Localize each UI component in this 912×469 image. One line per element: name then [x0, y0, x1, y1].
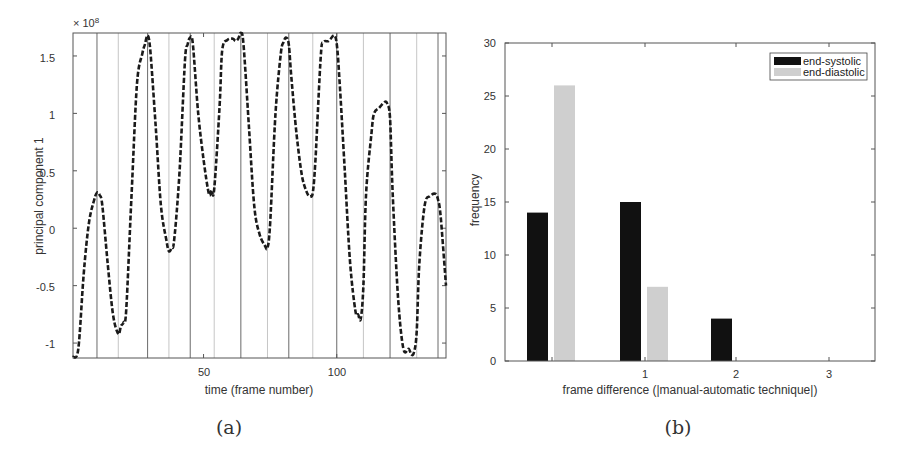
- bars: [527, 85, 732, 361]
- legend-swatch-end-systolic: [774, 57, 801, 65]
- xtick-3: 3: [826, 368, 832, 380]
- ytick-30: 30: [484, 37, 496, 49]
- ytick-1.5: 1.5: [40, 52, 55, 64]
- ytick-5: 5: [490, 302, 496, 314]
- ytick-1: 1: [49, 109, 55, 121]
- y-axis-label-b: frequency: [468, 174, 482, 227]
- ytick-0: 0: [490, 355, 496, 367]
- y-axis-label-a: principal component 1: [32, 137, 46, 255]
- line-chart-panel-a: × 108 1.5 1 0.5 0 -0.5 -1 50 100 time (f…: [32, 16, 446, 438]
- ytick-15: 15: [484, 196, 496, 208]
- xtick-1: 1: [642, 368, 648, 380]
- caption-b: (b): [665, 416, 692, 438]
- x-axis-label-a: time (frame number): [205, 383, 314, 397]
- xtick-100: 100: [328, 366, 346, 378]
- ytick-neg0.5: -0.5: [36, 281, 55, 293]
- bar-end-systolic-1: [620, 202, 641, 361]
- xtick-50: 50: [198, 366, 210, 378]
- caption-a: (a): [216, 416, 242, 438]
- ytick-25: 25: [484, 90, 496, 102]
- y-exponent-label: × 108: [73, 16, 100, 29]
- legend-swatch-end-diastolic: [774, 68, 801, 76]
- legend: end-systolic end-diastolic: [770, 53, 867, 80]
- vertical-markers: [97, 33, 438, 358]
- figure: × 108 1.5 1 0.5 0 -0.5 -1 50 100 time (f…: [0, 0, 912, 469]
- ytick-20: 20: [484, 143, 496, 155]
- bar-end-diastolic-0: [554, 85, 575, 361]
- xtick-2: 2: [733, 368, 739, 380]
- bar-chart-panel-b: 30 25 20 15 10 5 0 1 2 3 frame differenc…: [468, 37, 875, 438]
- ytick-10: 10: [484, 249, 496, 261]
- bar-end-diastolic-1: [647, 287, 668, 361]
- bar-end-systolic-0: [527, 213, 548, 361]
- ytick-neg1: -1: [45, 338, 55, 350]
- ytick-0: 0: [49, 224, 55, 236]
- bar-end-systolic-2: [711, 319, 732, 361]
- x-axis-label-b: frame difference (|manual-automatic tech…: [563, 383, 818, 397]
- legend-label-end-diastolic: end-diastolic: [803, 66, 865, 78]
